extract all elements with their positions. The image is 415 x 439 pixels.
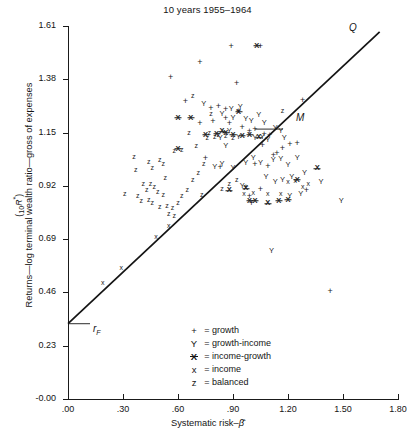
- legend-label: growth-income: [212, 338, 271, 351]
- data-point-balanced: z: [228, 180, 232, 188]
- data-point-growth-income: Y: [269, 247, 274, 255]
- data-point-growth: +: [210, 116, 215, 125]
- data-point-income-growth: X: [256, 133, 261, 141]
- y-tick: [63, 292, 69, 293]
- data-point-growth-income: Y: [318, 179, 323, 187]
- data-point-growth-income: Y: [256, 111, 261, 119]
- data-point-income-growth: X: [188, 114, 193, 122]
- data-point-balanced: z: [162, 191, 166, 199]
- data-point-balanced: z: [167, 210, 171, 218]
- data-point-growth: +: [295, 138, 300, 147]
- data-point-growth-income: Y: [339, 197, 344, 205]
- data-point-growth-income: Y: [251, 154, 256, 162]
- y-tick-label: 1.15: [16, 127, 56, 137]
- data-point-growth-income: Y: [201, 100, 206, 108]
- data-point-growth-income: Y: [295, 154, 300, 162]
- x-tick-label: .30: [101, 404, 145, 414]
- legend-item: X=income-growth: [186, 351, 271, 364]
- data-point-growth: +: [229, 41, 234, 50]
- data-point-income: x: [286, 179, 290, 187]
- legend-symbol-Xbar: X: [186, 351, 202, 364]
- legend-equals: =: [202, 377, 212, 390]
- data-point-growth: +: [240, 122, 245, 131]
- legend-equals: =: [202, 351, 212, 364]
- data-point-balanced: z: [176, 199, 180, 207]
- x-tick-label: .90: [211, 404, 255, 414]
- data-point-balanced: z: [173, 147, 177, 155]
- x-axis-title: Systematic risk–β̂: [0, 418, 415, 428]
- data-point-growth-income: Y: [230, 165, 235, 173]
- data-point-balanced: z: [224, 132, 228, 140]
- data-point-income: x: [251, 189, 255, 197]
- data-point-balanced: z: [209, 110, 213, 118]
- y-axis: [68, 26, 69, 400]
- data-point-balanced: z: [202, 160, 206, 168]
- data-point-balanced: z: [156, 188, 160, 196]
- data-point-growth: +: [234, 78, 239, 87]
- data-point-balanced: z: [195, 143, 199, 151]
- legend-equals: =: [202, 364, 212, 377]
- data-point-balanced: z: [132, 153, 136, 161]
- data-point-balanced: z: [185, 187, 189, 195]
- data-point-growth: +: [328, 287, 333, 296]
- x-tick: [233, 394, 234, 400]
- data-point-income: x: [119, 264, 123, 272]
- data-point-growth-income: Y: [298, 190, 303, 198]
- legend-symbol-x: x: [186, 364, 202, 377]
- y-axis-units: (10R*): [12, 160, 27, 250]
- data-point-balanced: z: [171, 204, 175, 212]
- annotation-rf: rF: [93, 323, 101, 336]
- data-point-growth-income: Y: [243, 159, 248, 167]
- data-point-growth: +: [197, 57, 202, 66]
- data-point-income: x: [154, 233, 158, 241]
- data-point-income: x: [279, 190, 283, 198]
- data-point-income: x: [294, 177, 298, 185]
- y-tick: [63, 79, 69, 80]
- data-point-growth-income: Y: [285, 161, 290, 169]
- data-point-income: x: [266, 190, 270, 198]
- data-point-income: x: [301, 183, 305, 191]
- data-point-growth: +: [300, 96, 305, 105]
- y-tick-label: 0.23: [16, 340, 56, 350]
- data-point-growth-income: Y: [262, 120, 267, 128]
- x-tick-label: 1.80: [376, 404, 415, 414]
- data-point-balanced: z: [180, 193, 184, 201]
- data-point-balanced: z: [151, 165, 155, 173]
- data-point-income: x: [101, 279, 105, 287]
- data-point-balanced: z: [281, 107, 285, 115]
- x-tick: [178, 394, 179, 400]
- data-point-growth: +: [183, 97, 188, 106]
- chart-title: 10 years 1955–1964: [0, 4, 415, 15]
- data-point-growth-income: Y: [243, 115, 248, 123]
- data-point-balanced: z: [145, 187, 149, 195]
- data-point-income-growth: X: [254, 42, 259, 50]
- x-tick: [343, 394, 344, 400]
- data-point-income-growth: X: [252, 197, 257, 205]
- x-tick: [288, 394, 289, 400]
- data-point-growth-income: Y: [265, 136, 270, 144]
- data-point-balanced: z: [173, 212, 177, 220]
- data-point-growth-income: Y: [302, 169, 307, 177]
- data-point-balanced: z: [231, 135, 235, 143]
- data-point-income: x: [167, 223, 171, 231]
- data-point-balanced: z: [196, 169, 200, 177]
- data-point-income-growth: X: [285, 196, 290, 204]
- data-point-growth: +: [197, 119, 202, 128]
- data-point-growth: +: [260, 141, 265, 150]
- legend-item: +=growth: [186, 325, 271, 338]
- market-line: [68, 32, 380, 324]
- x-tick: [398, 394, 399, 400]
- x-tick-label: .00: [46, 404, 90, 414]
- data-point-growth-income: Y: [271, 157, 276, 165]
- data-point-income-growth: X: [315, 165, 320, 173]
- scatter-plot-figure: 10 years 1955–1964 1.611.381.150.920.690…: [0, 0, 415, 439]
- legend-table: +=growthY=growth-incomeX=income-growthx=…: [186, 325, 271, 390]
- data-point-balanced: z: [151, 199, 155, 207]
- data-point-growth-income: Y: [280, 176, 285, 184]
- data-point-balanced: z: [217, 131, 221, 139]
- x-tick: [123, 394, 124, 400]
- y-tick: [63, 346, 69, 347]
- y-tick: [63, 239, 69, 240]
- data-point-growth: +: [265, 162, 270, 171]
- legend-label: growth: [212, 325, 271, 338]
